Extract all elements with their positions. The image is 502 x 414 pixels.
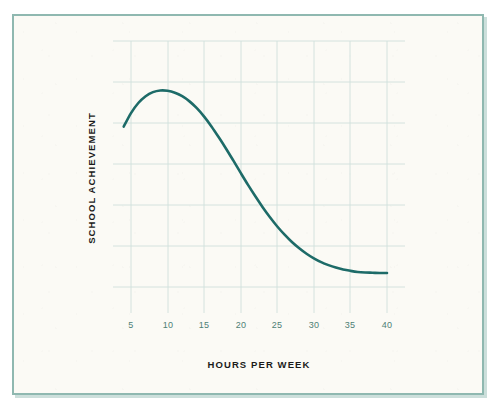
x-tick-label: 30 xyxy=(309,320,320,330)
x-tick-label: 20 xyxy=(236,320,247,330)
x-tick-labels: 5 10 15 20 25 30 35 40 xyxy=(128,320,392,330)
x-tick-label: 5 xyxy=(128,320,133,330)
x-tick-label: 40 xyxy=(382,320,393,330)
x-tick-label: 25 xyxy=(272,320,283,330)
y-axis-title: SCHOOL ACHIEVEMENT xyxy=(86,112,97,244)
figure-root: 5 10 15 20 25 30 35 40 HOURS PER WEEK SC… xyxy=(0,0,502,414)
x-axis-title: HOURS PER WEEK xyxy=(207,359,310,370)
x-tick-label: 35 xyxy=(345,320,356,330)
line-chart-plot: 5 10 15 20 25 30 35 40 HOURS PER WEEK SC… xyxy=(14,16,481,392)
x-tick-label: 10 xyxy=(163,320,174,330)
x-tick-label: 15 xyxy=(199,320,210,330)
chart-card: 5 10 15 20 25 30 35 40 HOURS PER WEEK SC… xyxy=(12,14,484,395)
